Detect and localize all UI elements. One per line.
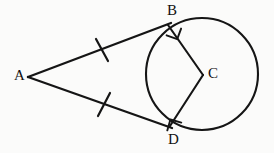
geometry-canvas: [0, 0, 274, 153]
vertex-label-a: A: [14, 68, 25, 83]
vertex-label-b: B: [167, 3, 177, 18]
geometry-figure: A B C D: [0, 0, 274, 153]
tangent-segment-ad: [28, 77, 172, 128]
radius-segment-cd: [170, 75, 203, 126]
vertex-label-d: D: [168, 132, 179, 147]
radius-segment-cb: [168, 25, 203, 75]
tangent-segment-ab: [28, 23, 171, 77]
vertex-label-c: C: [208, 66, 218, 81]
